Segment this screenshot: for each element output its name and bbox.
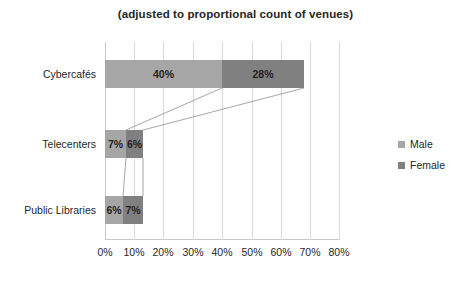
legend-item-male[interactable]: Male bbox=[398, 138, 468, 150]
bar-segment-cybercafes-female[interactable]: 28% bbox=[222, 60, 304, 88]
plot-area: 40% 28% 7% 6% 6% 7% bbox=[105, 42, 340, 240]
bar-segment-cybercafes-male[interactable]: 40% bbox=[105, 60, 222, 88]
x-tick-20: 20% bbox=[152, 246, 173, 258]
x-tick-80: 80% bbox=[328, 246, 349, 258]
chart-legend: Male Female bbox=[398, 138, 468, 180]
legend-item-female[interactable]: Female bbox=[398, 159, 468, 171]
x-tick-60: 60% bbox=[270, 246, 291, 258]
x-tick-70: 70% bbox=[299, 246, 320, 258]
x-axis-tick-labels: 0% 10% 20% 30% 40% 50% 60% 70% 80% bbox=[105, 246, 340, 262]
category-label-cybercafes: Cybercafés bbox=[0, 60, 96, 88]
x-tick-10: 10% bbox=[123, 246, 144, 258]
x-tick-40: 40% bbox=[211, 246, 232, 258]
x-tick-0: 0% bbox=[97, 246, 112, 258]
legend-label-female: Female bbox=[410, 159, 445, 171]
bar-segment-telecenters-female[interactable]: 6% bbox=[126, 130, 143, 158]
gridline-80 bbox=[339, 42, 340, 240]
chart-title: (adjusted to proportional count of venue… bbox=[0, 8, 471, 20]
category-label-public-libraries: Public Libraries bbox=[0, 196, 96, 224]
bar-segment-telecenters-male[interactable]: 7% bbox=[105, 130, 126, 158]
category-axis-labels: Cybercafés Telecenters Public Libraries bbox=[0, 42, 100, 240]
gridline-70 bbox=[310, 42, 311, 240]
legend-swatch-male-icon bbox=[398, 141, 405, 148]
legend-swatch-female-icon bbox=[398, 162, 405, 169]
category-label-telecenters: Telecenters bbox=[0, 130, 96, 158]
bar-segment-public-libraries-male[interactable]: 6% bbox=[105, 196, 123, 224]
bar-segment-public-libraries-female[interactable]: 7% bbox=[123, 196, 143, 224]
legend-label-male: Male bbox=[410, 138, 433, 150]
x-tick-50: 50% bbox=[241, 246, 262, 258]
x-tick-30: 30% bbox=[182, 246, 203, 258]
